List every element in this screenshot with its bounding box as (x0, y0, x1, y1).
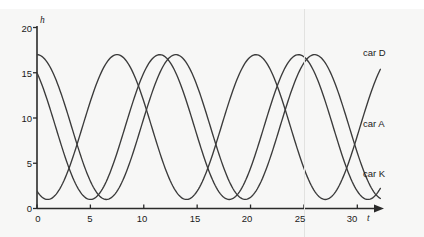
x-tick-label-5: 5 (84, 213, 96, 224)
series-label-car-d: car D (363, 47, 386, 58)
top-crop-mask (0, 0, 424, 9)
y-tick-label-20: 20 (18, 23, 32, 34)
series-label-car-k: car K (363, 168, 385, 179)
x-tick-label-30: 30 (345, 213, 359, 224)
y-tick-label-10: 10 (18, 113, 32, 124)
x-tick-label-20: 20 (240, 213, 254, 224)
plot-area (0, 0, 424, 237)
x-tick-label-25: 25 (293, 213, 307, 224)
page-fold-rule (304, 9, 305, 237)
axis-group (37, 26, 384, 213)
y-tick-label-15: 15 (18, 68, 32, 79)
x-axis-name: t (367, 213, 370, 223)
x-tick-label-0: 0 (32, 213, 44, 224)
series-label-car-a: car A (363, 118, 385, 129)
series-curves (37, 55, 380, 200)
y-tick-label-0: 0 (18, 203, 32, 214)
x-tick-label-15: 15 (188, 213, 202, 224)
y-tick-label-5: 5 (18, 158, 32, 169)
curve-car-d (37, 55, 380, 200)
chart-figure: 20 15 10 5 0 h 0 5 10 15 20 25 30 t car … (0, 0, 424, 237)
x-axis-arrowhead (374, 205, 384, 213)
y-axis-name: h (40, 15, 45, 25)
x-tick-label-10: 10 (135, 213, 149, 224)
